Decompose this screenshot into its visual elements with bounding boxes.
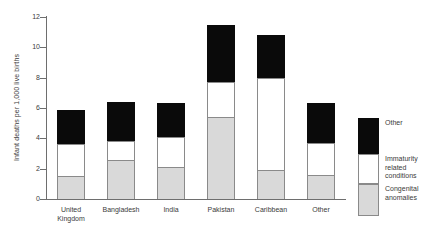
bar-segment-other	[207, 25, 235, 83]
legend-swatch-immaturity	[358, 154, 379, 184]
legend-label-immaturity: Immaturity related conditions	[385, 154, 418, 181]
bar-segment-congenital	[207, 117, 235, 199]
bar-segment-congenital	[107, 160, 135, 199]
bar-pakistan[interactable]	[207, 25, 235, 199]
x-axis-line	[46, 199, 346, 200]
bar-segment-congenital	[257, 170, 285, 199]
chart-figure: Infant deaths per 1,000 live births 0246…	[0, 0, 434, 247]
y-tick-label: 12	[14, 13, 40, 20]
bar-segment-other	[107, 102, 135, 141]
bar-bangladesh[interactable]	[107, 102, 135, 199]
y-tick-label: 10	[14, 43, 40, 50]
bar-segment-immaturity	[157, 137, 185, 167]
y-tick-label: 2	[14, 165, 40, 172]
legend-swatch-other	[358, 118, 379, 154]
bar-segment-other	[257, 35, 285, 77]
bar-caribbean[interactable]	[257, 35, 285, 199]
y-tick-label: 6	[14, 104, 40, 111]
bar-segment-congenital	[157, 167, 185, 199]
legend-item-immaturity[interactable]: Immaturity related conditions	[358, 154, 418, 184]
legend-swatch-congenital	[358, 184, 379, 216]
bar-segment-immaturity	[57, 144, 85, 176]
x-axis-label: Other	[281, 205, 361, 214]
bar-other[interactable]	[307, 103, 335, 199]
bar-segment-other	[307, 103, 335, 142]
y-tick-label: 4	[14, 134, 40, 141]
y-tick-label: 0	[14, 195, 40, 202]
bar-united-kingdom[interactable]	[57, 110, 85, 199]
y-tick-mark	[40, 199, 47, 200]
bar-segment-other	[157, 103, 185, 136]
bar-segment-other	[57, 110, 85, 145]
legend-item-other[interactable]: Other	[358, 118, 403, 154]
plot-area	[46, 17, 346, 199]
y-tick-label: 8	[14, 74, 40, 81]
bar-segment-immaturity	[107, 141, 135, 159]
bar-segment-congenital	[307, 175, 335, 199]
legend-label-congenital: Congenital anomalies	[385, 184, 418, 202]
bar-segment-immaturity	[307, 143, 335, 175]
bar-segment-immaturity	[257, 78, 285, 171]
legend-label-other: Other	[385, 118, 403, 128]
bar-segment-congenital	[57, 176, 85, 199]
bar-segment-immaturity	[207, 82, 235, 117]
legend-item-congenital[interactable]: Congenital anomalies	[358, 184, 418, 216]
bar-india[interactable]	[157, 103, 185, 199]
